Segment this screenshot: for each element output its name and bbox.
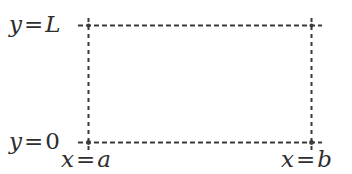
label-x-equals-b-operator: =	[294, 146, 317, 172]
label-y-equals-0-operator: =	[22, 128, 45, 154]
corner-dot-top-right	[310, 24, 314, 28]
label-y-equals-L: y=L	[9, 13, 61, 36]
label-x-equals-a: x=a	[61, 148, 111, 171]
label-y-equals-L-variable: y	[9, 11, 22, 37]
label-y-equals-0-value: 0	[45, 128, 60, 154]
math-diagram-figure: y=L y=0 x=a x=b	[0, 0, 352, 174]
label-x-equals-a-operator: =	[74, 146, 97, 172]
corner-dot-bottom-right	[309, 140, 314, 145]
corner-dot-bottom-left	[86, 140, 91, 145]
corner-dot-top-left	[87, 24, 91, 28]
label-x-equals-b-value: b	[317, 146, 332, 172]
label-y-equals-L-operator: =	[22, 11, 45, 37]
label-x-equals-a-variable: x	[61, 146, 74, 172]
label-x-equals-b-variable: x	[281, 146, 294, 172]
label-x-equals-b: x=b	[281, 148, 332, 171]
label-y-equals-0-variable: y	[9, 128, 22, 154]
label-x-equals-a-value: a	[97, 146, 111, 172]
label-y-equals-L-value: L	[45, 11, 60, 37]
label-y-equals-0: y=0	[9, 130, 60, 153]
